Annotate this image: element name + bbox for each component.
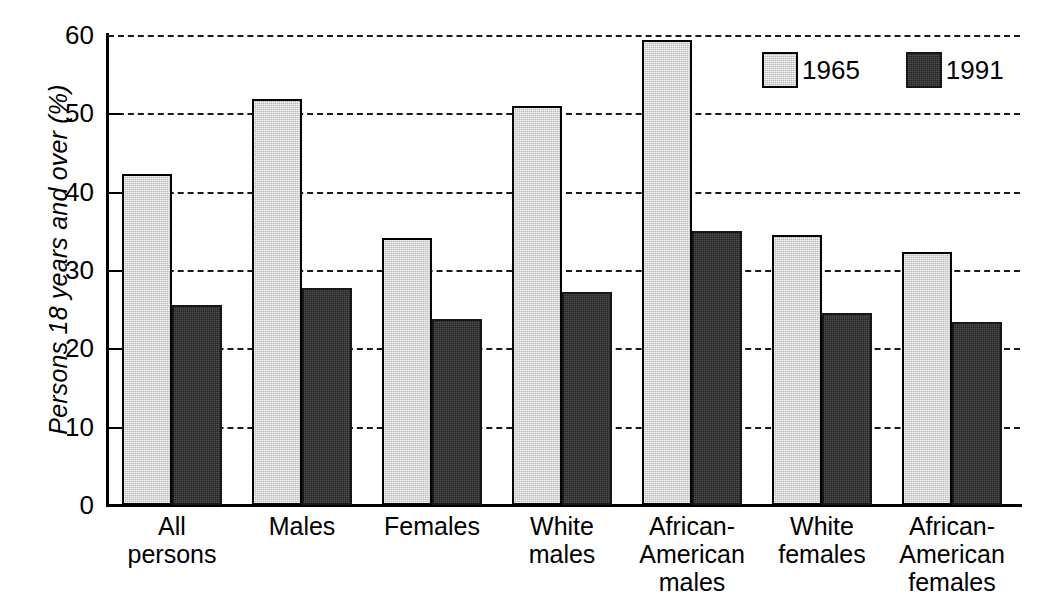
bar-1991-1[interactable]: [302, 288, 352, 505]
legend-label-1991: 1991: [946, 57, 1004, 83]
tick-mark-30: [108, 270, 121, 272]
bar-1965-6[interactable]: [902, 252, 952, 505]
bar-1965-2[interactable]: [382, 238, 432, 505]
bar-1965-0[interactable]: [122, 174, 172, 505]
bar-1965-3[interactable]: [512, 106, 562, 506]
legend: 19651991: [762, 52, 1004, 88]
tick-mark-50: [108, 113, 121, 115]
legend-swatch-1965: [762, 52, 798, 88]
gridline-30: [108, 270, 1020, 272]
bar-1991-2[interactable]: [432, 319, 482, 505]
bar-1991-0[interactable]: [172, 305, 222, 505]
bar-1991-3[interactable]: [562, 292, 612, 505]
legend-label-1965: 1965: [802, 57, 860, 83]
legend-item-1991[interactable]: 1991: [906, 52, 1004, 88]
x-axis-label-6: African- American females: [847, 512, 1040, 596]
bar-1965-5[interactable]: [772, 235, 822, 505]
legend-item-1965[interactable]: 1965: [762, 52, 860, 88]
plot-area: [108, 35, 1020, 505]
y-axis-title: Persons 18 years and over (%): [44, 30, 73, 490]
tick-mark-20: [108, 348, 121, 350]
bar-1965-4[interactable]: [642, 40, 692, 505]
bar-1991-6[interactable]: [952, 322, 1002, 505]
legend-swatch-1991: [906, 52, 942, 88]
gridline-50: [108, 113, 1020, 115]
tick-mark-10: [108, 427, 121, 429]
bar-1991-4[interactable]: [692, 231, 742, 505]
bar-1965-1[interactable]: [252, 99, 302, 505]
gridline-60: [108, 35, 1020, 37]
bar-1991-5[interactable]: [822, 313, 872, 505]
tick-mark-40: [108, 192, 121, 194]
gridline-40: [108, 192, 1020, 194]
bar-chart: Persons 18 years and over (%) 0102030405…: [0, 0, 1040, 609]
